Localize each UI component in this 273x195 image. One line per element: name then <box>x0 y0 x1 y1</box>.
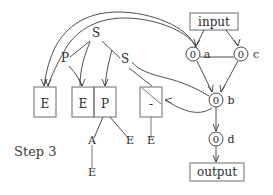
leaf-e-under-a: E <box>88 166 96 179</box>
node-b-label: b <box>227 94 234 107</box>
graph-node-b[interactable]: 0 b <box>209 93 235 107</box>
output-box-label: output <box>197 165 237 179</box>
input-box-label: input <box>198 15 230 29</box>
box-3-label: P <box>101 97 109 111</box>
edge-s-to-box4 <box>129 68 152 86</box>
leaf-e-right-of-p: E <box>126 134 134 147</box>
node-d-label: d <box>227 133 234 146</box>
node-c-value: 0 <box>238 49 244 60</box>
figure-canvas: S P S E E <box>0 0 273 195</box>
step-label: Step 3 <box>14 144 57 159</box>
symbol-top-s: S <box>92 26 100 40</box>
derivation-graph-figure: S P S E E <box>0 0 273 195</box>
leaf-a: A <box>87 134 97 147</box>
box-1-label: E <box>41 97 50 111</box>
leaf-edges <box>92 117 151 168</box>
edge-a-to-b <box>197 61 212 92</box>
edge-b-to-box4 <box>165 100 212 112</box>
node-b-value: 0 <box>213 95 219 106</box>
box-row: E E P - <box>34 87 162 117</box>
node-d-value: 0 <box>213 134 219 145</box>
graph-node-c[interactable]: 0 c <box>234 47 259 61</box>
edge-c-to-b <box>221 61 238 92</box>
leaf-e-under-dash: E <box>147 134 155 147</box>
graph-node-d[interactable]: 0 d <box>209 132 235 146</box>
edge-s-to-box3 <box>105 50 112 86</box>
symbol-right-s: S <box>121 52 129 66</box>
long-sweep-edges <box>41 12 198 86</box>
edge-s-to-s <box>102 41 120 58</box>
box-4-label: - <box>149 97 153 111</box>
node-c-label: c <box>253 48 259 61</box>
graph-node-a[interactable]: 0 a <box>186 47 211 61</box>
edge-b-to-box4-arrowhead <box>165 98 172 103</box>
sweep-edge-outer <box>44 12 196 86</box>
node-a-label: a <box>204 48 211 61</box>
symbol-left-p: P <box>61 51 69 65</box>
node-a-value: 0 <box>190 49 196 60</box>
box-2-label: E <box>79 97 88 111</box>
